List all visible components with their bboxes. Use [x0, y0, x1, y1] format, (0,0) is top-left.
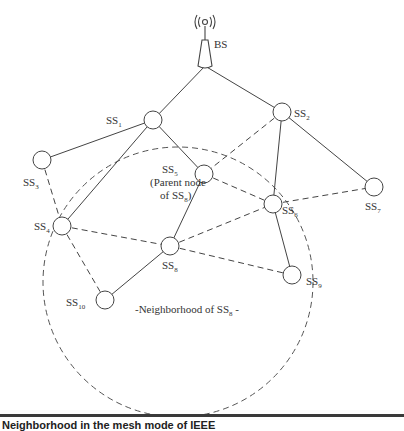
antenna-tower-icon — [195, 15, 215, 68]
figure-caption: Neighborhood in the mesh mode of IEEE — [2, 419, 215, 431]
node-label-ss2: SS2 — [294, 107, 310, 122]
solid-link-ss8-ss10 — [105, 246, 170, 300]
node-label-ss10: SS10 — [66, 296, 86, 311]
node-ss4 — [53, 217, 71, 235]
solid-link-ss2-ss7 — [282, 112, 374, 187]
dashed-link-ss4-ss8 — [62, 226, 170, 246]
dashed-link-ss8-ss6 — [170, 204, 273, 246]
node-ss3 — [33, 151, 51, 169]
links — [42, 66, 374, 300]
node-ss9 — [283, 266, 301, 284]
solid-link-ss1-ss5 — [153, 120, 204, 174]
node-label-ss6: SS6 — [282, 204, 298, 219]
dashed-link-ss8-ss9 — [170, 246, 292, 275]
solid-link-ss2-ss6 — [273, 112, 282, 204]
node-label-ss7: SS7 — [365, 200, 381, 215]
parent-note-line2: of SS8) — [160, 189, 192, 204]
base-station: BS — [195, 15, 227, 68]
solid-link-bs-ss1 — [153, 66, 205, 120]
dashed-link-ss5-ss6 — [204, 174, 273, 204]
node-label-ss4: SS4 — [34, 220, 50, 235]
parent-note-line1: (Parent node — [150, 176, 206, 189]
node-label-ss1: SS1 — [106, 114, 122, 129]
divider-rule — [0, 414, 404, 417]
dashed-link-ss3-ss4 — [42, 160, 62, 226]
neighborhood-label: -Neighborhood of SS8 - — [135, 303, 239, 318]
dashed-link-ss4-ss10 — [62, 226, 105, 300]
node-ss7 — [365, 178, 383, 196]
dashed-link-ss2-ss5 — [204, 112, 282, 174]
node-ss2 — [273, 103, 291, 121]
mesh-network-diagram: BS SS1SS2SS3SS4SS5SS6SS7SS8SS9SS10 (Pare… — [0, 0, 404, 414]
node-ss8 — [161, 237, 179, 255]
node-label-ss8: SS8 — [162, 259, 178, 274]
dashed-link-ss6-ss7 — [273, 187, 374, 204]
node-ss1 — [144, 111, 162, 129]
solid-link-bs-ss2 — [205, 66, 282, 112]
node-label-ss9: SS9 — [306, 275, 322, 290]
node-ss10 — [96, 291, 114, 309]
nodes: SS1SS2SS3SS4SS5SS6SS7SS8SS9SS10 — [23, 103, 383, 311]
node-label-ss3: SS3 — [23, 176, 39, 191]
node-ss6 — [264, 195, 282, 213]
bs-label: BS — [214, 38, 227, 50]
